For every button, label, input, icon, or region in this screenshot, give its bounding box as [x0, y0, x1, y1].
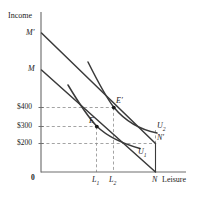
label-M-prime-mark: ′	[33, 28, 35, 37]
point-Eprime-marker	[112, 106, 116, 110]
label-E-prime: E′	[116, 97, 123, 105]
point-E-marker	[95, 125, 99, 129]
label-N-prime-mark: ′	[162, 133, 164, 142]
x-axis-title: Leisure	[162, 176, 186, 184]
label-E: E	[89, 117, 94, 125]
axes	[41, 12, 186, 173]
label-M-prime: M′	[26, 29, 34, 37]
label-U2: U2	[157, 122, 166, 132]
y-tick-label-400: $400	[17, 103, 32, 111]
y-tick-label-300: $300	[17, 122, 32, 130]
label-N-prime: N′	[157, 134, 164, 142]
x-tick-label-N: N	[152, 176, 157, 184]
label-U1-sub: 1	[144, 152, 147, 158]
label-U1: U1	[138, 148, 147, 158]
y-tick-label-200: $200	[17, 139, 32, 147]
origin-label: 0	[31, 174, 35, 182]
labor-leisure-diagram: Income Leisure 0 $400 $300 $200 L1 L2 N …	[0, 0, 200, 203]
x-tick-L2-sub: 2	[113, 180, 116, 186]
x-tick-label-L1: L1	[92, 176, 99, 186]
guide-lines	[41, 108, 156, 173]
x-tick-L1-sub: 1	[96, 180, 99, 186]
x-tick-label-L2: L2	[109, 176, 116, 186]
y-axis-title: Income	[8, 12, 32, 20]
label-E-prime-mark: ′	[121, 96, 123, 105]
label-U2-sub: 2	[163, 126, 166, 132]
label-M-prime-base: M	[26, 28, 33, 37]
label-M: M	[28, 65, 35, 73]
